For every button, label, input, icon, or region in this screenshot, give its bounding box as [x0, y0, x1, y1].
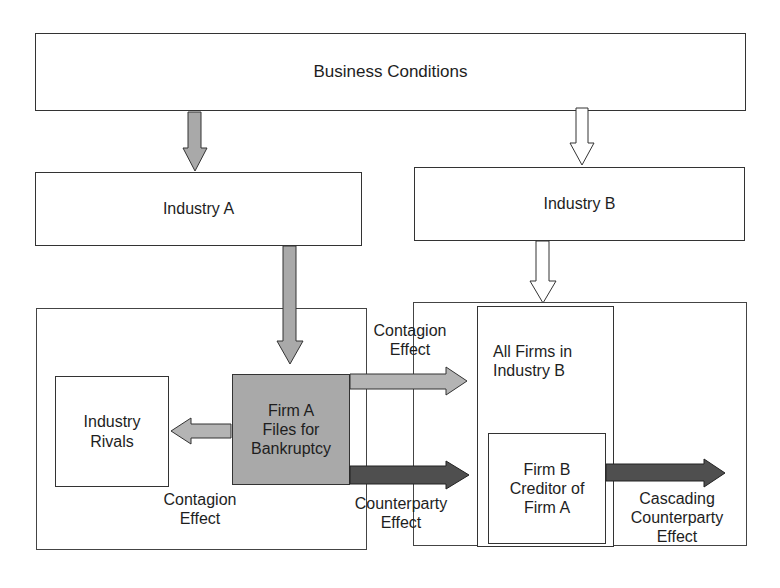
arrow-cascading-counterparty — [606, 459, 725, 487]
arrow-contagion-to-rivals — [171, 418, 231, 444]
arrow-business-to-industry-b — [570, 108, 594, 165]
counterparty-effect-label: Counterparty Effect — [336, 494, 466, 532]
arrow-industry-b-to-all-firms — [530, 241, 556, 303]
contagion-effect-label-industry-b: Contagion Effect — [355, 321, 465, 359]
arrow-industry-a-to-firm-a — [277, 246, 303, 364]
arrow-business-to-industry-a — [183, 112, 207, 171]
cascading-counterparty-effect-label: Cascading Counterparty Effect — [612, 489, 742, 547]
arrow-contagion-to-industry-b — [350, 367, 467, 395]
arrow-counterparty — [350, 461, 469, 489]
contagion-effect-label-rivals: Contagion Effect — [130, 490, 270, 528]
